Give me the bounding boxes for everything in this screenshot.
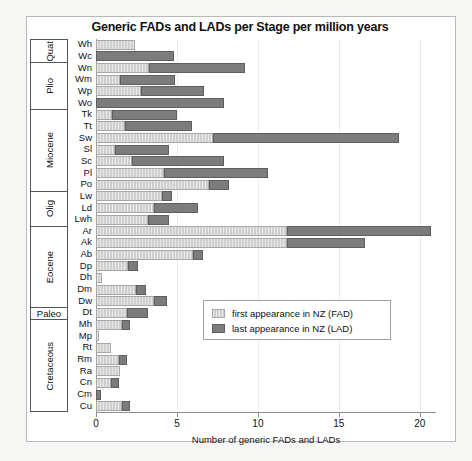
bar-row[interactable]	[96, 75, 436, 85]
bar-row[interactable]	[96, 121, 436, 131]
bar-segment-lad[interactable]	[122, 401, 130, 411]
bar-segment-lad[interactable]	[287, 238, 365, 248]
bar-segment-lad[interactable]	[287, 226, 431, 236]
stage-label: Dp	[80, 261, 92, 271]
bar-segment-lad[interactable]	[96, 51, 174, 61]
bar-segment-lad[interactable]	[193, 250, 203, 260]
bar-segment-fad[interactable]	[96, 308, 127, 318]
bar-row[interactable]	[96, 238, 436, 248]
bar-segment-fad[interactable]	[96, 366, 120, 376]
bar-segment-lad[interactable]	[148, 215, 169, 225]
bar-segment-fad[interactable]	[96, 378, 111, 388]
epoch-label: Cretaceous	[44, 342, 55, 391]
bar-row[interactable]	[96, 261, 436, 271]
stage-label: Wh	[78, 39, 92, 49]
bar-segment-fad[interactable]	[96, 86, 141, 96]
bar-row[interactable]	[96, 191, 436, 201]
bar-segment-fad[interactable]	[96, 203, 154, 213]
bar-segment-lad[interactable]	[141, 86, 204, 96]
bar-segment-fad[interactable]	[96, 285, 136, 295]
bar-segment-lad[interactable]	[154, 203, 198, 213]
bar-segment-fad[interactable]	[96, 156, 132, 166]
stage-label: Wm	[75, 74, 92, 84]
bar-segment-fad[interactable]	[96, 121, 125, 131]
bar-row[interactable]	[96, 180, 436, 190]
bar-segment-lad[interactable]	[128, 261, 138, 271]
bar-segment-lad[interactable]	[96, 98, 224, 108]
bar-row[interactable]	[96, 98, 436, 108]
bar-row[interactable]	[96, 250, 436, 260]
bar-segment-fad[interactable]	[96, 355, 119, 365]
bar-row[interactable]	[96, 226, 436, 236]
stage-label: Mh	[79, 319, 92, 329]
bar-segment-lad[interactable]	[127, 308, 148, 318]
bar-row[interactable]	[96, 215, 436, 225]
bar-row[interactable]	[96, 355, 436, 365]
bar-segment-lad[interactable]	[111, 378, 119, 388]
bar-row[interactable]	[96, 145, 436, 155]
stage-label: Cn	[80, 377, 92, 387]
bar-row[interactable]	[96, 40, 436, 50]
stage-label: Dm	[77, 284, 92, 294]
bar-segment-lad[interactable]	[209, 180, 228, 190]
epoch-cell: Plio	[31, 63, 67, 110]
bar-segment-lad[interactable]	[162, 191, 172, 201]
bar-segment-lad[interactable]	[119, 355, 127, 365]
bar-row[interactable]	[96, 343, 436, 353]
bar-row[interactable]	[96, 273, 436, 283]
bar-segment-lad[interactable]	[136, 285, 146, 295]
bar-row[interactable]	[96, 133, 436, 143]
bar-segment-lad[interactable]	[132, 156, 224, 166]
bar-row[interactable]	[96, 110, 436, 120]
bar-segment-fad[interactable]	[96, 40, 135, 50]
bar-row[interactable]	[96, 285, 436, 295]
stage-label: Mp	[79, 331, 92, 341]
bar-row[interactable]	[96, 203, 436, 213]
bar-segment-fad[interactable]	[96, 238, 287, 248]
bar-row[interactable]	[96, 63, 436, 73]
bar-row[interactable]	[96, 378, 436, 388]
bar-row[interactable]	[96, 156, 436, 166]
epoch-axis-column: QuatPlioMioceneOligEocenePaleoCretaceous	[30, 39, 68, 412]
bar-segment-lad[interactable]	[164, 168, 268, 178]
stage-label: Tk	[81, 109, 92, 119]
bar-segment-lad[interactable]	[115, 145, 168, 155]
bar-segment-fad[interactable]	[96, 133, 213, 143]
bar-row[interactable]	[96, 86, 436, 96]
bar-segment-fad[interactable]	[96, 331, 99, 341]
epoch-label: Eocene	[44, 251, 55, 283]
bar-segment-fad[interactable]	[96, 320, 122, 330]
bar-segment-fad[interactable]	[96, 250, 193, 260]
bar-segment-fad[interactable]	[96, 168, 164, 178]
bar-row[interactable]	[96, 51, 436, 61]
epoch-cell: Paleo	[31, 308, 67, 320]
bar-segment-lad[interactable]	[154, 296, 167, 306]
bar-segment-fad[interactable]	[96, 180, 209, 190]
bar-segment-fad[interactable]	[96, 110, 112, 120]
bar-segment-fad[interactable]	[96, 401, 122, 411]
bar-segment-lad[interactable]	[122, 320, 130, 330]
bar-segment-fad[interactable]	[96, 343, 111, 353]
bar-segment-lad[interactable]	[112, 110, 177, 120]
bar-row[interactable]	[96, 168, 436, 178]
bar-segment-fad[interactable]	[96, 273, 102, 283]
bar-segment-lad[interactable]	[149, 63, 245, 73]
stage-label: Tt	[84, 121, 92, 131]
bar-row[interactable]	[96, 390, 436, 400]
bar-segment-fad[interactable]	[96, 75, 120, 85]
bar-segment-fad[interactable]	[96, 63, 149, 73]
bar-row[interactable]	[96, 401, 436, 411]
bar-segment-lad[interactable]	[213, 133, 399, 143]
bar-segment-lad[interactable]	[120, 75, 175, 85]
bar-segment-lad[interactable]	[96, 390, 101, 400]
bar-segment-fad[interactable]	[96, 261, 128, 271]
bar-segment-fad[interactable]	[96, 145, 115, 155]
bar-segment-fad[interactable]	[96, 215, 148, 225]
bar-segment-lad[interactable]	[125, 121, 191, 131]
bar-segment-fad[interactable]	[96, 191, 162, 201]
bar-row[interactable]	[96, 366, 436, 376]
bar-segment-fad[interactable]	[96, 226, 287, 236]
epoch-cell: Eocene	[31, 227, 67, 309]
bar-segment-fad[interactable]	[96, 296, 154, 306]
epoch-label: Miocene	[44, 132, 55, 168]
